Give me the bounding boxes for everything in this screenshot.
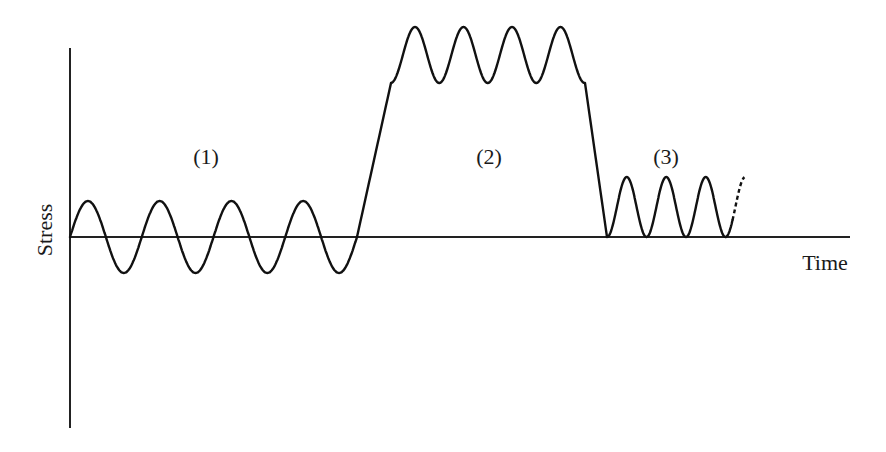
stress-time-diagram: (1) (2) (3) Time Stress bbox=[0, 0, 886, 452]
y-axis-label: Stress bbox=[32, 204, 57, 257]
region-3-label: (3) bbox=[653, 144, 679, 169]
region-2-label: (2) bbox=[476, 144, 502, 169]
stress-curve-continuation bbox=[733, 177, 745, 220]
x-axis-label: Time bbox=[802, 250, 848, 275]
region-1-label: (1) bbox=[193, 144, 219, 169]
